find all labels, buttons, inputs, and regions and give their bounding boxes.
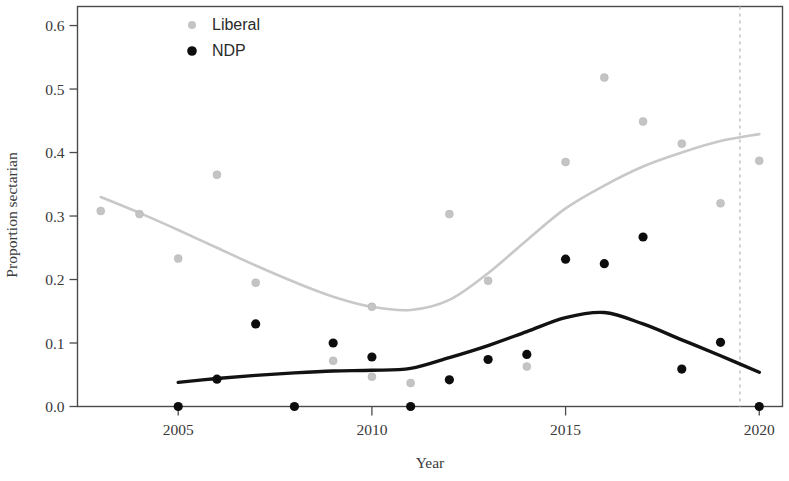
data-point-liberal (484, 277, 492, 285)
x-axis-title: Year (416, 454, 445, 471)
x-tick-label: 2015 (550, 421, 581, 438)
figure-background (0, 0, 789, 481)
legend-marker-liberal (188, 21, 196, 29)
data-point-ndp (329, 338, 338, 347)
data-point-ndp (406, 402, 415, 411)
legend-label-ndp: NDP (212, 42, 246, 59)
y-tick-label: 0.4 (45, 144, 65, 161)
data-point-liberal (717, 199, 725, 207)
data-point-ndp (174, 402, 183, 411)
data-point-liberal (755, 157, 763, 165)
data-point-liberal (600, 74, 608, 82)
data-point-ndp (638, 232, 647, 241)
data-point-liberal (407, 379, 415, 387)
data-point-ndp (484, 355, 493, 364)
data-point-ndp (755, 402, 764, 411)
data-point-liberal (213, 171, 221, 179)
x-tick-label: 2005 (163, 421, 194, 438)
data-point-liberal (639, 117, 647, 125)
scatter-plot-svg: 0.00.10.20.30.40.50.6 2005201020152020 L… (0, 0, 789, 481)
data-point-liberal (329, 357, 337, 365)
legend-marker-ndp (187, 46, 197, 56)
data-point-liberal (445, 210, 453, 218)
data-point-ndp (522, 350, 531, 359)
y-tick-label: 0.0 (45, 398, 65, 415)
data-point-ndp (445, 375, 454, 384)
data-point-liberal (678, 140, 686, 148)
x-tick-label: 2020 (744, 421, 775, 438)
data-point-ndp (251, 319, 260, 328)
chart-figure: 0.00.10.20.30.40.50.6 2005201020152020 L… (0, 0, 789, 481)
y-tick-label: 0.1 (45, 335, 64, 352)
y-tick-label: 0.5 (45, 81, 65, 98)
x-tick-label: 2010 (356, 421, 387, 438)
data-point-ndp (600, 259, 609, 268)
y-tick-label: 0.3 (45, 208, 65, 225)
data-point-liberal (174, 255, 182, 263)
data-point-liberal (562, 158, 570, 166)
data-point-ndp (367, 352, 376, 361)
data-point-liberal (135, 210, 143, 218)
legend-label-liberal: Liberal (212, 16, 260, 33)
data-point-ndp (212, 375, 221, 384)
y-tick-label: 0.6 (45, 17, 65, 34)
data-point-ndp (716, 338, 725, 347)
y-axis-title: Proportion sectarian (3, 152, 20, 278)
data-point-ndp (677, 364, 686, 373)
data-point-liberal (368, 303, 376, 311)
data-point-liberal (523, 363, 531, 371)
data-point-liberal (368, 373, 376, 381)
data-point-liberal (97, 207, 105, 215)
data-point-liberal (252, 279, 260, 287)
data-point-ndp (561, 255, 570, 264)
data-point-ndp (290, 402, 299, 411)
y-tick-label: 0.2 (45, 271, 64, 288)
